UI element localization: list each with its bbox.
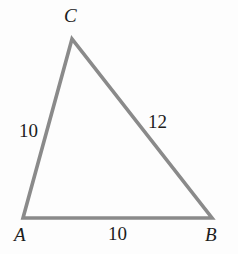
vertex-label-b: B	[205, 225, 217, 244]
side-length-label-ab: 10	[108, 224, 127, 243]
side-length-label-ac: 10	[19, 121, 38, 140]
triangle-figure: C A B 10 12 10	[0, 0, 238, 254]
side-length-label-bc: 12	[148, 112, 167, 131]
triangle-outline	[23, 39, 212, 218]
vertex-label-c: C	[64, 6, 77, 25]
vertex-label-a: A	[14, 225, 26, 244]
